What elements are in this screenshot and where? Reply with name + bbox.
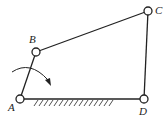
ground-hatch	[34, 100, 113, 106]
joint-A	[16, 95, 24, 103]
label-C: C	[155, 4, 163, 16]
joint-D	[140, 95, 148, 103]
label-B: B	[29, 33, 36, 45]
joint-B	[32, 48, 40, 56]
four-bar-linkage-diagram: A B C D	[0, 0, 167, 125]
link-CD	[144, 11, 148, 99]
link-BC	[36, 11, 148, 52]
label-A: A	[7, 101, 15, 113]
rotation-arrow-icon	[12, 68, 51, 87]
joint-C	[144, 7, 152, 15]
label-D: D	[138, 105, 147, 117]
link-AB	[20, 52, 36, 99]
